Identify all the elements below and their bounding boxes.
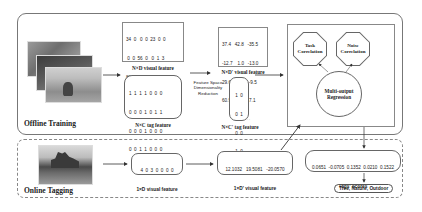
connector-arrows — [0, 0, 422, 212]
